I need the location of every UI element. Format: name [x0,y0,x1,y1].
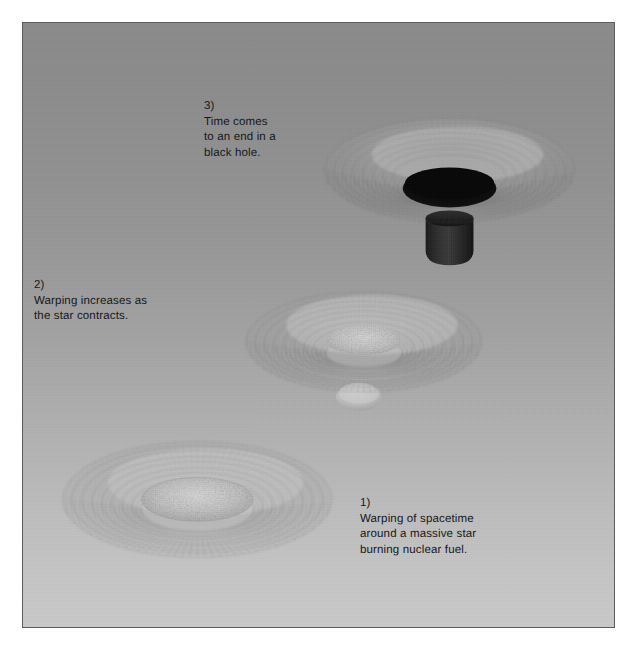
caption-massive-star: 1) Warping of spacetime around a massive… [360,496,550,558]
illustration-panel: 3) Time comes to an end in a black hole.… [22,22,615,628]
figure-root: 3) Time comes to an end in a black hole.… [0,0,638,651]
caption-contracting-star: 2) Warping increases as the star contrac… [34,278,204,325]
event-horizon [403,168,497,208]
caption-black-hole: 3) Time comes to an end in a black hole. [204,99,334,161]
